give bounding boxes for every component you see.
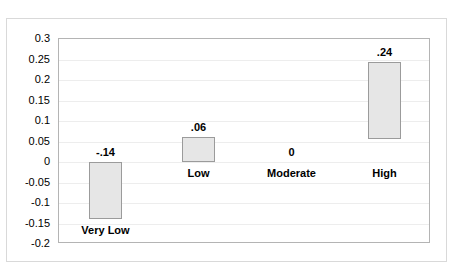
plot-area: -.14Very Low.06Low0Moderate.24High	[58, 38, 430, 243]
x-axis-category-label: High	[372, 167, 396, 179]
y-axis-tick-label: 0.2	[35, 73, 50, 85]
bar-value-label: 0	[288, 146, 294, 158]
x-axis-category-label: Very Low	[81, 224, 129, 236]
y-axis-tick-label: 0	[44, 155, 50, 167]
bar-value-label: .06	[191, 121, 206, 133]
bar-value-label: -.14	[96, 146, 115, 158]
y-axis: 0.30.250.20.150.10.050-0.05-0.1-0.15-0.2	[6, 38, 54, 243]
y-axis-tick-label: -0.1	[31, 196, 50, 208]
x-axis-category-label: Moderate	[267, 167, 316, 179]
bar[interactable]	[182, 137, 215, 162]
y-axis-tick-label: -0.15	[25, 217, 50, 229]
y-axis-tick-label: -0.2	[31, 237, 50, 249]
bar[interactable]	[368, 62, 401, 140]
gridline	[59, 60, 429, 61]
y-axis-tick-label: 0.3	[35, 32, 50, 44]
y-axis-tick-label: 0.1	[35, 114, 50, 126]
y-axis-tick-label: -0.05	[25, 176, 50, 188]
bar[interactable]	[89, 162, 122, 219]
bar-value-label: .24	[377, 46, 392, 58]
y-axis-tick-label: 0.05	[29, 135, 50, 147]
y-axis-tick-label: 0.25	[29, 53, 50, 65]
gridline	[59, 142, 429, 143]
x-axis-category-label: Low	[188, 167, 210, 179]
y-axis-tick-label: 0.15	[29, 94, 50, 106]
